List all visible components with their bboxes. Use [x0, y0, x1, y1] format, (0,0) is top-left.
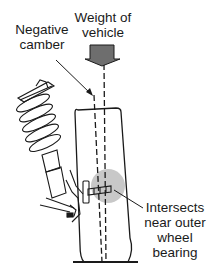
camber-label: Negative camber — [14, 22, 70, 52]
camber-arrowhead-icon — [86, 88, 93, 96]
weight-arrow — [85, 45, 120, 66]
lower-control-arm — [40, 198, 76, 217]
intersects-label: Intersects near outer wheel bearing — [142, 200, 208, 260]
weight-label: Weight of vehicle — [72, 10, 134, 40]
camber-leader-line — [56, 60, 92, 95]
vertical-load-line — [104, 64, 106, 262]
strut — [42, 150, 66, 198]
coil-spring — [15, 80, 63, 155]
